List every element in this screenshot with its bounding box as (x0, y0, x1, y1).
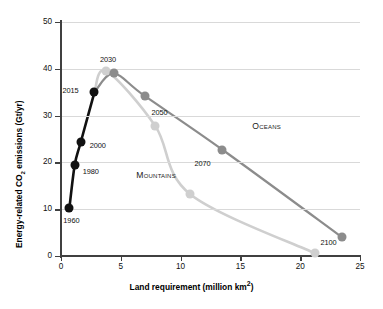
x-tick-label-20: 20 (288, 262, 312, 271)
historical-point-2000 (76, 138, 85, 147)
point-label-2100: 2100 (321, 238, 337, 247)
x-axis-title-pre: Land requirement (million km (130, 282, 247, 292)
gridline-y-50 (61, 22, 360, 23)
x-tick-5 (121, 256, 122, 261)
y-tick-label-50: 50 (26, 17, 52, 26)
y-tick-20 (55, 162, 60, 163)
y-tick-50 (55, 22, 60, 23)
x-tick-label-5: 5 (109, 262, 133, 271)
y-tick-label-40: 40 (26, 64, 52, 73)
point-label-2000: 2000 (90, 141, 106, 150)
y-tick-30 (55, 116, 60, 117)
x-tick-25 (360, 256, 361, 261)
historical-point-1980 (70, 160, 79, 169)
gridline-y-10 (61, 209, 360, 210)
y-tick-10 (55, 209, 60, 210)
point-label-2050: 2050 (151, 108, 167, 117)
oceans-point-2030 (109, 69, 118, 78)
y-tick-40 (55, 69, 60, 70)
y-tick-label-10: 10 (26, 204, 52, 213)
x-axis-title-post: ) (251, 282, 254, 292)
point-label-2030: 2030 (100, 55, 116, 64)
x-tick-label-15: 15 (228, 262, 252, 271)
gridline-y-20 (61, 162, 360, 163)
mountains-point-2050 (151, 122, 160, 131)
y-axis-title-sub: 2 (20, 171, 26, 174)
gridline-y-30 (61, 116, 360, 117)
x-tick-label-25: 25 (348, 262, 372, 271)
y-axis-title-post: emissions (Gt/yr) (14, 100, 24, 171)
x-tick-20 (300, 256, 301, 261)
x-tick-label-0: 0 (49, 262, 73, 271)
x-tick-15 (240, 256, 241, 261)
x-tick-10 (181, 256, 182, 261)
point-label-2015: 2015 (62, 86, 78, 95)
point-label-1980: 1980 (83, 167, 99, 176)
point-label-1960: 1960 (63, 216, 79, 225)
series-label-mountains: Mountains (136, 170, 176, 180)
oceans-point-2050 (140, 91, 149, 100)
oceans-point-2070 (218, 145, 227, 154)
point-label-2070: 2070 (194, 159, 210, 168)
y-axis-title: Energy-related CO2 emissions (Gt/yr) (14, 100, 26, 248)
chart-container: 010203040500510152025 196019802000201520… (0, 0, 383, 309)
x-tick-0 (61, 256, 62, 261)
y-axis-title-pre: Energy-related CO (14, 174, 24, 248)
y-tick-0 (55, 256, 60, 257)
historical-point-2015 (90, 88, 99, 97)
x-tick-label-10: 10 (169, 262, 193, 271)
mountains-point-2070 (186, 190, 195, 199)
series-label-oceans: Oceans (252, 121, 281, 131)
y-tick-label-30: 30 (26, 111, 52, 120)
y-tick-label-0: 0 (26, 251, 52, 260)
x-axis-title: Land requirement (million km2) (0, 280, 383, 292)
oceans-point-2100 (338, 233, 347, 242)
historical-point-1960 (65, 204, 74, 213)
y-axis-line (60, 20, 62, 258)
mountains-point-2100 (310, 249, 319, 258)
y-tick-label-20: 20 (26, 157, 52, 166)
